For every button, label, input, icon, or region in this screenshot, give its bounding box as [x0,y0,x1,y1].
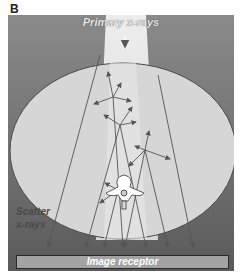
image-receptor: Image receptor [16,255,229,269]
diagram-frame: Primary x-rays Scatter x-rays Image rece… [8,15,234,271]
scatter-line2: x-rays [16,218,50,231]
panel-label: B [10,2,19,16]
primary-xrays-label: Primary x-rays [8,16,234,28]
scatter-xrays-label: Scatter x-rays [16,205,50,231]
scatter-diagram [8,15,234,271]
scatter-line1: Scatter [16,205,50,218]
